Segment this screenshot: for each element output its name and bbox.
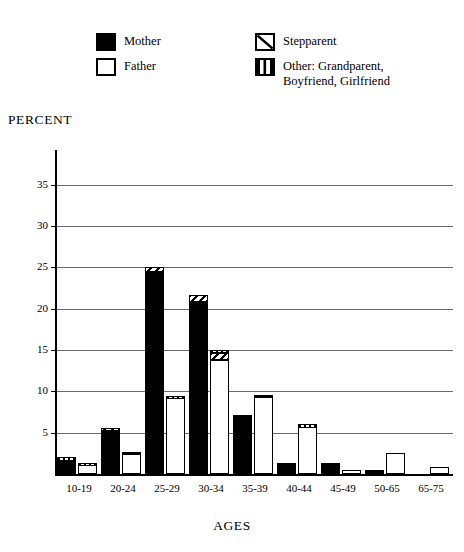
y-tick-mark — [51, 267, 57, 268]
segment-divider — [167, 398, 184, 400]
bar-segment-father — [299, 428, 316, 473]
bar-father — [430, 467, 449, 474]
vertical-hatch-square-icon — [255, 58, 275, 76]
segment-divider — [211, 359, 228, 361]
x-tick-label: 20-24 — [110, 482, 136, 494]
bar-segment-mother — [234, 415, 251, 473]
y-tick-mark — [51, 185, 57, 186]
bar-segment-mother — [58, 461, 75, 473]
legend-item-other: Other: Grandparent, Boyfriend, Girlfrien… — [255, 58, 390, 89]
y-tick-label: 5 — [43, 426, 49, 438]
bar-mother — [365, 470, 384, 474]
bar-father — [122, 452, 141, 474]
legend-label-stepparent: Stepparent — [283, 33, 336, 49]
bar-segment-mother — [146, 273, 163, 473]
bar-father — [254, 395, 273, 474]
x-tick-label: 45-49 — [330, 482, 356, 494]
legend-item-mother: Mother — [96, 33, 161, 51]
chart-legend: Mother Father Stepparent Other: Gr — [0, 0, 464, 110]
legend-item-stepparent: Stepparent — [255, 33, 336, 51]
y-tick-label: 35 — [37, 178, 48, 190]
x-tick-label: 40-44 — [286, 482, 312, 494]
y-tick-mark — [51, 433, 57, 434]
bar-segment-father — [123, 455, 140, 473]
bar-segment-father — [431, 467, 448, 473]
y-tick-mark — [51, 391, 57, 392]
bar-segment-father — [79, 466, 96, 473]
y-tick-label: 15 — [37, 343, 48, 355]
gridline — [57, 185, 453, 186]
chart-page: Mother Father Stepparent Other: Gr — [0, 0, 464, 552]
segment-divider — [102, 430, 119, 432]
gridline — [57, 350, 453, 351]
y-tick-label: 10 — [37, 384, 48, 396]
legend-item-father: Father — [96, 58, 156, 76]
bar-segment-father — [387, 453, 404, 473]
x-tick-label: 65-75 — [418, 482, 444, 494]
bar-father — [210, 350, 229, 474]
gridline — [57, 309, 453, 310]
x-tick-label: 25-29 — [154, 482, 180, 494]
bar-mother — [57, 457, 76, 474]
segment-divider — [58, 460, 75, 462]
y-tick-mark — [51, 309, 57, 310]
bar-father — [78, 463, 97, 474]
bar-mother — [101, 428, 120, 474]
diagonal-slash-glyph — [257, 35, 273, 49]
segment-divider — [255, 396, 272, 398]
plot-area: 510152025303510-1920-2425-2930-3435-3940… — [57, 160, 453, 474]
x-tick-label: 30-34 — [198, 482, 224, 494]
bar-father — [342, 470, 361, 474]
vertical-bars-glyph — [257, 60, 273, 74]
open-white-square-icon — [96, 58, 116, 76]
bar-mother — [189, 295, 208, 474]
segment-divider — [79, 465, 96, 467]
solid-black-square-icon — [96, 33, 116, 51]
bar-father — [166, 396, 185, 474]
y-axis-line — [55, 150, 57, 474]
bar-segment-father — [343, 470, 360, 473]
legend-label-other: Other: Grandparent, Boyfriend, Girlfrien… — [283, 58, 390, 89]
bar-segment-father — [211, 361, 228, 473]
bar-mother — [321, 463, 340, 474]
bar-mother — [277, 463, 296, 474]
diagonal-hatch-square-icon — [255, 33, 275, 51]
gridline — [57, 267, 453, 268]
segment-divider — [123, 453, 140, 455]
x-axis-title: AGES — [0, 518, 464, 534]
legend-label-mother: Mother — [124, 33, 161, 49]
y-tick-label: 20 — [37, 302, 48, 314]
y-tick-label: 30 — [37, 219, 48, 231]
y-axis-title: PERCENT — [8, 112, 72, 128]
bar-segment-mother — [102, 432, 119, 473]
x-axis-line — [55, 474, 453, 476]
segment-divider — [211, 352, 228, 354]
gridline — [57, 391, 453, 392]
gridline — [57, 226, 453, 227]
bar-segment-mother — [366, 470, 383, 473]
bar-mother — [233, 415, 252, 474]
y-tick-label: 25 — [37, 260, 48, 272]
bar-father — [298, 424, 317, 474]
legend-label-father: Father — [124, 58, 156, 74]
bar-segment-mother — [278, 463, 295, 473]
bar-mother — [145, 267, 164, 474]
bar-segment-father — [255, 398, 272, 473]
bar-segment-mother — [322, 463, 339, 473]
segment-divider — [299, 427, 316, 429]
x-tick-label: 10-19 — [66, 482, 92, 494]
x-tick-label: 35-39 — [242, 482, 268, 494]
y-tick-mark — [51, 350, 57, 351]
bar-segment-father — [167, 399, 184, 473]
segment-divider — [146, 271, 163, 273]
x-tick-label: 50-65 — [374, 482, 400, 494]
bar-segment-mother — [190, 303, 207, 473]
bar-father — [386, 453, 405, 474]
y-tick-mark — [51, 226, 57, 227]
segment-divider — [190, 301, 207, 303]
